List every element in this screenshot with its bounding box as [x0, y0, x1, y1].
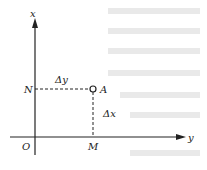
point-a-label: A	[99, 84, 107, 95]
horizontal-axis-arrow-icon	[176, 134, 186, 140]
point-m-label: M	[87, 141, 99, 152]
coordinate-diagram: x y O A N M Δy Δx	[0, 0, 207, 170]
point-n-label: N	[23, 84, 34, 95]
vertical-axis-arrow-icon	[32, 18, 38, 28]
delta-x-label: Δx	[102, 108, 116, 119]
vertical-axis-label: x	[30, 8, 36, 19]
delta-y-label: Δy	[54, 74, 68, 85]
origin-label: O	[22, 141, 30, 152]
point-a-marker	[90, 86, 96, 92]
horizontal-axis-label: y	[187, 132, 194, 143]
background-text-ghost	[108, 8, 200, 156]
